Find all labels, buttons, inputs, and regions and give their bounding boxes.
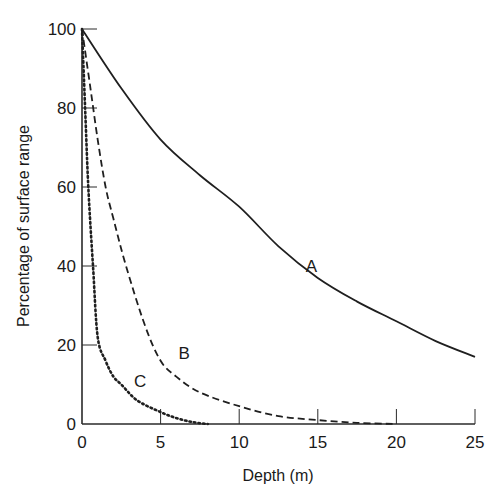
curve-c (82, 29, 208, 424)
x-tick-label: 15 (308, 433, 327, 452)
chart: 0510152025020406080100 ABC Depth (m) Per… (0, 0, 499, 504)
y-tick-label: 20 (57, 336, 76, 355)
x-tick-label: 10 (230, 433, 249, 452)
curve-labels: ABC (134, 257, 318, 391)
y-tick-label: 60 (57, 178, 76, 197)
x-tick-label: 5 (156, 433, 165, 452)
curve-b (82, 29, 396, 424)
curve-a (82, 29, 475, 357)
y-tick-label: 0 (67, 415, 76, 434)
curves (82, 29, 475, 424)
y-tick-label: 80 (57, 99, 76, 118)
x-tick-label: 25 (466, 433, 485, 452)
x-tick-label: 0 (77, 433, 86, 452)
axes: 0510152025020406080100 (48, 20, 485, 452)
curve-label-a: A (306, 257, 318, 276)
y-tick-label: 40 (57, 257, 76, 276)
x-axis-title: Depth (m) (242, 467, 313, 484)
y-tick-label: 100 (48, 20, 76, 39)
x-tick-label: 20 (387, 433, 406, 452)
curve-label-c: C (134, 372, 146, 391)
curve-label-b: B (179, 344, 190, 363)
y-axis-title: Percentage of surface range (15, 125, 32, 327)
